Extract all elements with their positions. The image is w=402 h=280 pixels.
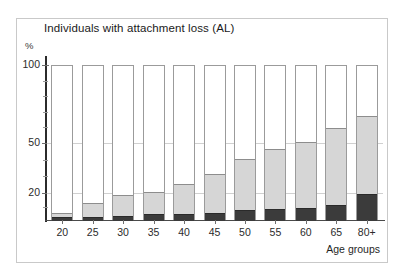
bar-stack[interactable] <box>173 65 195 220</box>
y-tick-label: 20 <box>8 186 40 198</box>
chart-title: Individuals with attachment loss (AL) <box>44 22 234 34</box>
bar-stack[interactable] <box>82 65 104 220</box>
bar-stack[interactable] <box>325 65 347 220</box>
plot-area <box>47 65 382 220</box>
x-tick-mark <box>154 220 155 224</box>
bar-stack[interactable] <box>295 65 317 220</box>
bar-stack[interactable] <box>264 65 286 220</box>
x-tick-label: 25 <box>76 226 110 238</box>
x-tick-mark <box>62 220 63 224</box>
bar-stack[interactable] <box>51 65 73 220</box>
x-tick-label: 35 <box>137 226 171 238</box>
x-tick-mark <box>275 220 276 224</box>
x-tick-mark <box>245 220 246 224</box>
x-tick-mark <box>215 220 216 224</box>
bar-stack[interactable] <box>112 65 134 220</box>
x-tick-mark <box>123 220 124 224</box>
bar-stack[interactable] <box>204 65 226 220</box>
bar-stack[interactable] <box>143 65 165 220</box>
x-tick-mark <box>336 220 337 224</box>
x-tick-label: 20 <box>45 226 79 238</box>
y-tick-label: 100 <box>8 58 40 70</box>
y-tick-label: 50 <box>8 136 40 148</box>
x-tick-label: 80+ <box>350 226 384 238</box>
x-tick-label: 40 <box>167 226 201 238</box>
x-tick-label: 55 <box>258 226 292 238</box>
x-tick-label: 45 <box>198 226 232 238</box>
chart-root: Individuals with attachment loss (AL) % … <box>0 0 402 280</box>
x-tick-label: 60 <box>289 226 323 238</box>
bar-stack[interactable] <box>356 65 378 220</box>
bar-segment-severe <box>357 194 377 221</box>
bar-segment-severe <box>296 208 316 222</box>
bar-segment-severe <box>326 205 346 221</box>
y-axis-unit-label: % <box>25 40 33 51</box>
x-axis-caption: Age groups <box>326 243 380 255</box>
x-tick-mark <box>367 220 368 224</box>
x-tick-mark <box>93 220 94 224</box>
x-tick-label: 30 <box>106 226 140 238</box>
x-tick-label: 50 <box>228 226 262 238</box>
x-tick-mark <box>306 220 307 224</box>
bar-stack[interactable] <box>234 65 256 220</box>
x-tick-label: 65 <box>319 226 353 238</box>
x-tick-mark <box>184 220 185 224</box>
